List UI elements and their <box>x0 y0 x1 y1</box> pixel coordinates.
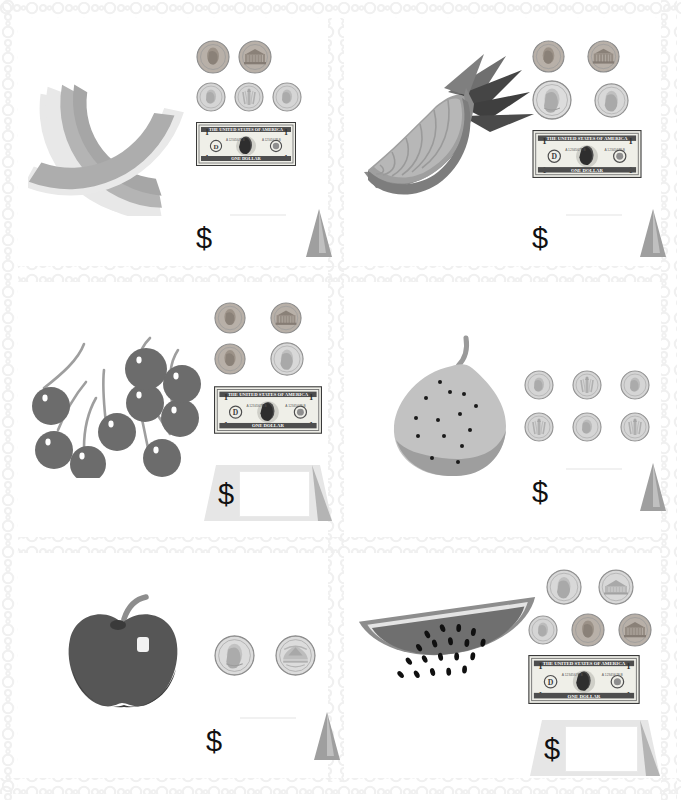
answer-input-6[interactable] <box>565 726 638 772</box>
svg-text:ONE DOLLAR: ONE DOLLAR <box>231 156 261 161</box>
dollar-sign-label: $ <box>532 224 548 253</box>
nickel-heads-coin-icon <box>594 83 629 118</box>
coin-row <box>532 80 642 120</box>
svg-text:1: 1 <box>309 392 313 402</box>
penny-tails-coin-icon <box>270 302 302 334</box>
svg-text:THE UNITED STATES OF AMERICA: THE UNITED STATES OF AMERICA <box>547 136 628 141</box>
dollar-sign-label: $ <box>218 480 234 509</box>
svg-text:A 12345678 B: A 12345678 B <box>604 148 625 152</box>
quarter-heads-coin-icon <box>214 635 255 676</box>
svg-text:THE UNITED STATES OF AMERICA: THE UNITED STATES OF AMERICA <box>209 127 284 132</box>
coin-row <box>214 635 316 676</box>
problem-5-panel: $ <box>18 553 328 782</box>
svg-text:1: 1 <box>538 661 542 671</box>
nickel-heads-coin-icon <box>546 569 582 605</box>
answer-guide-line <box>566 468 622 470</box>
answer-input-3[interactable] <box>239 471 310 517</box>
problem-6-answer-row[interactable]: $ <box>530 718 660 780</box>
dollar-sign-label: $ <box>206 727 222 756</box>
coin-row <box>532 40 642 73</box>
dime-heads-coin-icon <box>196 82 226 112</box>
problem-1-panel: THE UNITED STATES OF AMERICA D 1 1 1 1 A… <box>18 18 328 266</box>
worksheet-page: THE UNITED STATES OF AMERICA D 1 1 1 1 A… <box>0 0 681 800</box>
apple-illustration <box>58 585 188 719</box>
svg-text:ONE DOLLAR: ONE DOLLAR <box>252 423 284 428</box>
svg-text:A 12345678 B: A 12345678 B <box>262 138 281 142</box>
penny-heads-coin-icon <box>196 40 230 74</box>
svg-text:D: D <box>548 678 554 687</box>
penny-tails-coin-icon <box>618 613 652 647</box>
nickel-tails-coin-icon <box>598 569 634 605</box>
problem-2-coins: THE UNITED STATES OF AMERICA D 1 1 1 1 A… <box>532 40 642 178</box>
svg-text:1: 1 <box>284 128 288 137</box>
problem-4-panel: $ <box>344 282 662 537</box>
svg-text:1: 1 <box>626 661 630 671</box>
svg-text:ONE DOLLAR: ONE DOLLAR <box>571 168 604 173</box>
one-dollar-bill-icon: THE UNITED STATES OF AMERICA D 1 1 1 1 A… <box>532 130 642 178</box>
coin-row <box>528 613 652 647</box>
svg-text:THE UNITED STATES OF AMERICA: THE UNITED STATES OF AMERICA <box>228 392 309 397</box>
pineapple-slice-illustration <box>356 48 546 212</box>
answer-guide-line <box>230 214 286 216</box>
one-dollar-bill-icon: THE UNITED STATES OF AMERICA D 1 1 1 1 A… <box>196 122 302 166</box>
nickel-heads-coin-icon <box>270 342 304 376</box>
svg-text:A 12345678 B: A 12345678 B <box>602 673 624 677</box>
svg-text:1: 1 <box>224 392 228 402</box>
svg-text:A 12345678 B: A 12345678 B <box>285 404 305 408</box>
penny-heads-coin-icon <box>571 613 605 647</box>
dime-heads-coin-icon <box>272 82 302 112</box>
dollar-sign-label: $ <box>196 224 212 253</box>
svg-text:A 12345678 B: A 12345678 B <box>562 673 584 677</box>
coin-row <box>196 82 302 112</box>
dime-tails-coin-icon <box>524 412 554 442</box>
cantaloupe-slice-shape <box>22 78 198 214</box>
dime-tails-coin-icon <box>620 412 650 442</box>
answer-guide-line <box>566 214 622 216</box>
penny-heads-coin-icon <box>214 302 246 334</box>
svg-text:1: 1 <box>542 136 546 146</box>
quarter-tails-coin-icon <box>275 635 316 676</box>
one-dollar-bill-icon: THE UNITED STATES OF AMERICA D 1 1 1 1 A… <box>528 655 652 704</box>
svg-text:A 12345678 B: A 12345678 B <box>565 148 586 152</box>
penny-tails-coin-icon <box>587 40 620 73</box>
coin-row <box>524 370 650 400</box>
problem-6-panel: THE UNITED STATES OF AMERICA D 1 1 1 1 A… <box>344 553 662 782</box>
coin-row <box>214 342 322 376</box>
dime-heads-coin-icon <box>572 412 602 442</box>
penny-heads-coin-icon <box>214 343 246 375</box>
svg-text:D: D <box>213 143 218 151</box>
problem-4-coins <box>524 370 650 442</box>
penny-tails-coin-icon <box>238 40 272 74</box>
dime-heads-coin-icon <box>524 370 554 400</box>
one-dollar-bill-icon: THE UNITED STATES OF AMERICA D 1 1 1 1 A… <box>214 386 322 434</box>
dollar-sign-label: $ <box>544 735 560 764</box>
problem-2-panel: THE UNITED STATES OF AMERICA D 1 1 1 1 A… <box>344 18 662 266</box>
pear-illustration <box>380 322 530 486</box>
svg-text:THE UNITED STATES OF AMERICA: THE UNITED STATES OF AMERICA <box>543 661 626 666</box>
watermelon-slice-illustration <box>358 587 548 721</box>
problem-3-answer-row[interactable]: $ <box>204 463 332 525</box>
dime-tails-coin-icon <box>234 82 264 112</box>
problem-3-panel: THE UNITED STATES OF AMERICA D 1 1 1 1 A… <box>18 282 328 537</box>
triangle-marker-icon <box>640 463 666 515</box>
svg-text:A 12345678 B: A 12345678 B <box>246 404 266 408</box>
coin-row <box>214 302 322 334</box>
svg-text:D: D <box>552 152 558 161</box>
triangle-marker-icon <box>306 209 332 261</box>
problem-6-coins: THE UNITED STATES OF AMERICA D 1 1 1 1 A… <box>528 569 652 704</box>
problem-5-coins <box>214 635 316 676</box>
problem-1-coins: THE UNITED STATES OF AMERICA D 1 1 1 1 A… <box>196 40 302 166</box>
problem-3-coins: THE UNITED STATES OF AMERICA D 1 1 1 1 A… <box>214 302 322 434</box>
coin-row <box>524 412 650 442</box>
svg-text:D: D <box>233 408 239 417</box>
svg-text:1: 1 <box>628 136 632 146</box>
dime-heads-coin-icon <box>528 615 558 645</box>
coin-row <box>546 569 652 605</box>
quarter-heads-coin-icon <box>532 80 572 120</box>
penny-heads-coin-icon <box>532 40 565 73</box>
triangle-marker-icon <box>314 712 340 764</box>
dollar-sign-label: $ <box>532 478 548 507</box>
triangle-marker-icon <box>640 209 666 261</box>
svg-text:A 12345678 B: A 12345678 B <box>226 138 245 142</box>
svg-text:ONE DOLLAR: ONE DOLLAR <box>568 694 601 699</box>
